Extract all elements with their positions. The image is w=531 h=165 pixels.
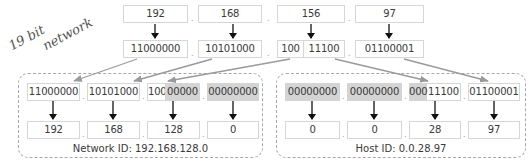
down-arrow-icon bbox=[155, 24, 389, 38]
split-arrow-icon bbox=[74, 59, 488, 81]
down-arrow-icon bbox=[53, 101, 494, 119]
arrows-overlay bbox=[0, 0, 531, 165]
